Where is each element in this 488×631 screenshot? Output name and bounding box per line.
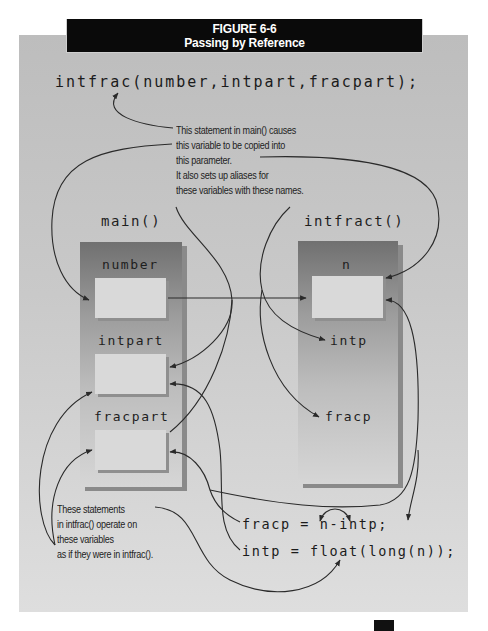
statement-fracp: fracp = n-intp; xyxy=(242,516,388,532)
var-slot-intpart xyxy=(95,354,166,394)
bottom-annotation-line: these variables xyxy=(57,532,153,547)
top-annotation-line: these variables with these names. xyxy=(176,183,304,198)
function-block-title: intfract() xyxy=(304,213,404,229)
bottom-annotation-line: in intfrac() operate on xyxy=(57,517,153,532)
top-annotation-line: This statement in main() causes xyxy=(176,123,304,138)
figure-number: FIGURE 6-6 xyxy=(67,22,422,36)
var-label-intpart: intpart xyxy=(98,333,164,348)
var-slot-number xyxy=(95,278,166,318)
param-label-fracp: fracp xyxy=(325,409,372,424)
var-label-fracpart: fracpart xyxy=(94,409,169,424)
var-slot-fracpart xyxy=(95,430,166,470)
top-annotation-line: It also sets up aliases for xyxy=(176,168,304,183)
top-annotation-line: this parameter. xyxy=(176,153,304,168)
bottom-annotation: These statements in intfrac() operate on… xyxy=(57,502,153,562)
top-annotation: This statement in main() causes this var… xyxy=(176,123,304,198)
param-label-n: n xyxy=(342,257,351,272)
bottom-annotation-line: as if they were in intfrac(). xyxy=(57,547,153,562)
param-label-intp: intp xyxy=(330,333,368,348)
var-label-number: number xyxy=(102,257,159,272)
call-statement: intfrac(number,intpart,fracpart); xyxy=(55,73,419,91)
figure-header: FIGURE 6-6 Passing by Reference xyxy=(66,19,423,53)
statement-intp: intp = float(long(n)); xyxy=(242,543,456,559)
top-annotation-line: this variable to be copied into xyxy=(176,138,304,153)
param-slot-n xyxy=(312,276,383,318)
bottom-annotation-line: These statements xyxy=(57,502,153,517)
figure-title: Passing by Reference xyxy=(67,36,422,50)
page-corner-mark xyxy=(374,620,394,631)
main-block-title: main() xyxy=(101,213,161,229)
